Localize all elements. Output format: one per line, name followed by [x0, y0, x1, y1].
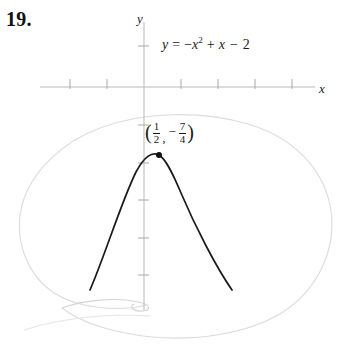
equation-term1-exponent: 2 [198, 35, 203, 45]
equation-term2: x [219, 37, 225, 52]
vertex-y-fraction: 7 4 [179, 121, 187, 145]
vertex-minus-sign: − [168, 124, 175, 140]
x-axis-label: x [319, 81, 325, 97]
equation-label: y=−x2+x−2 [162, 37, 250, 53]
equation-term3-sign: − [230, 37, 238, 52]
vertex-comma: , [162, 130, 165, 146]
vertex-y-denominator: 4 [179, 133, 187, 146]
worksheet-figure: 19. [0, 0, 341, 346]
equation-term2-sign: + [207, 37, 215, 52]
vertex-x-numerator: 1 [153, 121, 161, 133]
pencil-scribble-outline [19, 115, 332, 338]
vertex-x-denominator: 2 [153, 133, 161, 146]
equation-term1-sign: − [184, 37, 192, 52]
vertex-open-paren: ( [145, 122, 152, 142]
equation-term3: 2 [243, 37, 250, 52]
x-axis [40, 79, 315, 89]
vertex-y-numerator: 7 [179, 121, 187, 133]
equation-lhs: y [162, 37, 168, 52]
equation-equals: = [172, 37, 180, 52]
parabola-curve [90, 154, 232, 290]
vertex-coordinate-label: ( 1 2 , − 7 4 ) [145, 118, 194, 148]
vertex-close-paren: ) [187, 122, 194, 142]
vertex-point-marker [156, 152, 162, 158]
vertex-x-fraction: 1 2 [153, 121, 161, 145]
y-axis-label: y [137, 11, 143, 27]
